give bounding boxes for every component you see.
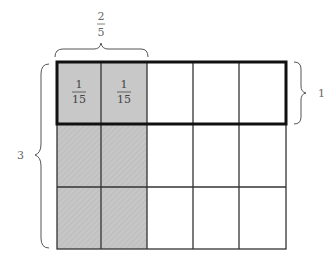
- right-label: 1: [318, 87, 325, 100]
- svg-text:15: 15: [72, 93, 86, 106]
- svg-text:15: 15: [117, 93, 131, 106]
- left-brace: [35, 64, 49, 248]
- left-label: 3: [17, 149, 24, 162]
- svg-text:1: 1: [121, 78, 128, 91]
- fraction-area-diagram: 1 15 1 15 2 5 1 3: [0, 0, 333, 260]
- shaded-top-row: [57, 62, 147, 124]
- top-brace: [55, 43, 148, 57]
- svg-text:2: 2: [98, 10, 105, 23]
- svg-text:5: 5: [98, 26, 105, 39]
- right-brace: [294, 62, 306, 124]
- top-fraction-label: 2 5: [97, 10, 105, 39]
- svg-text:1: 1: [76, 78, 83, 91]
